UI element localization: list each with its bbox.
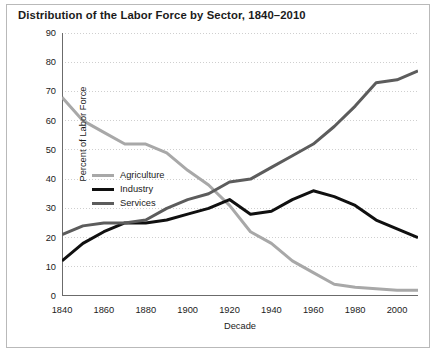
- chart-figure: Distribution of the Labor Force by Secto…: [0, 0, 436, 356]
- gridlines: [62, 33, 418, 267]
- legend-label: Industry: [120, 184, 153, 194]
- x-tick-label: 1900: [177, 305, 198, 315]
- x-tick-label: 1840: [52, 305, 73, 315]
- x-axis-title: Decade: [62, 321, 418, 331]
- y-tick-label: 90: [46, 28, 56, 38]
- y-tick-label: 80: [46, 57, 56, 67]
- axis-lines: [62, 33, 418, 296]
- legend-label: Services: [120, 198, 156, 208]
- legend-swatch-icon: [92, 202, 114, 205]
- series-line-services: [62, 71, 418, 235]
- axis-ticks: [62, 33, 418, 296]
- y-tick-label: 50: [46, 145, 56, 155]
- y-tick-label: 20: [46, 233, 56, 243]
- x-tick-label: 2000: [387, 305, 408, 315]
- x-tick-label: 1940: [261, 305, 282, 315]
- y-tick-label: 40: [46, 174, 56, 184]
- legend-label: Agriculture: [120, 170, 164, 180]
- x-tick-label: 1860: [94, 305, 115, 315]
- x-tick-label: 1960: [303, 305, 324, 315]
- chart-legend: AgricultureIndustryServices: [92, 168, 164, 210]
- legend-item-industry: Industry: [92, 182, 164, 196]
- legend-item-services: Services: [92, 196, 164, 210]
- plot-area: 0102030405060708090 18401860188019001920…: [62, 33, 418, 296]
- y-tick-label: 60: [46, 116, 56, 126]
- x-tick-label: 1880: [135, 305, 156, 315]
- legend-item-agriculture: Agriculture: [92, 168, 164, 182]
- legend-swatch-icon: [92, 174, 114, 177]
- x-tick-label: 1920: [219, 305, 240, 315]
- x-tick-label: 1980: [345, 305, 366, 315]
- plot-svg: [62, 33, 418, 296]
- chart-title: Distribution of the Labor Force by Secto…: [18, 9, 306, 21]
- y-tick-label: 70: [46, 86, 56, 96]
- y-tick-label: 30: [46, 203, 56, 213]
- y-axis-title: Percent of Labor Force: [78, 64, 88, 204]
- y-tick-label: 10: [46, 262, 56, 272]
- y-tick-label: 0: [51, 291, 56, 301]
- legend-swatch-icon: [92, 188, 114, 191]
